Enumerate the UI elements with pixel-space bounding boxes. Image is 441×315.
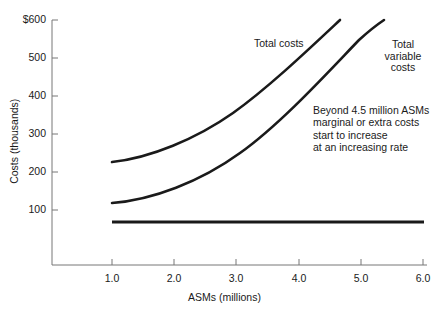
series-label-total-costs: Total costs <box>254 38 304 50</box>
y-axis-title: Costs (thousands) <box>9 91 20 191</box>
x-tick-label-3: 3.0 <box>216 273 256 284</box>
x-tick-label-6: 6.0 <box>403 273 441 284</box>
x-tick-label-5: 5.0 <box>341 273 381 284</box>
y-axis-ticks <box>52 20 58 210</box>
annotation-line-3: start to increase <box>313 129 429 141</box>
cost-behavior-chart: $600 500 400 300 200 100 1.0 2.0 3.0 4.0… <box>0 0 441 315</box>
x-tick-label-2: 2.0 <box>154 273 194 284</box>
annotation-line-2: marginal or extra costs <box>313 116 429 128</box>
annotation-line-4: at an increasing rate <box>313 141 429 153</box>
y-tick-label-100: 100 <box>0 204 46 215</box>
series-label-total-variable-costs-line1: Total <box>372 39 434 51</box>
y-tick-label-500: 500 <box>0 52 46 63</box>
x-axis-ticks <box>112 259 423 265</box>
series-total-costs-curve <box>112 20 340 162</box>
annotation-line-1: Beyond 4.5 million ASMs <box>313 104 429 116</box>
x-axis-title: ASMs (millions) <box>188 292 261 303</box>
x-tick-label-4: 4.0 <box>279 273 319 284</box>
y-tick-label-600: $600 <box>0 14 46 25</box>
annotation-marginal-cost-note: Beyond 4.5 million ASMs marginal or extr… <box>313 104 429 154</box>
x-tick-label-1: 1.0 <box>92 273 132 284</box>
series-label-total-variable-costs-line2: variable costs <box>372 51 434 74</box>
series-label-total-variable-costs: Total variable costs <box>372 39 434 74</box>
